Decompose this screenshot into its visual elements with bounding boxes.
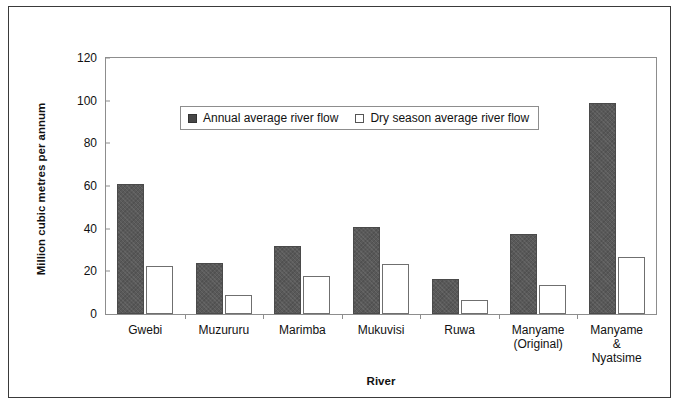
x-axis-category-label: Marimba [279,323,326,337]
x-axis-tick-mark [342,314,343,319]
filled-square-icon [188,114,197,123]
bar-dry [225,295,252,314]
plot-area: 020406080100120GwebiMuzururuMarimbaMukuv… [105,57,657,315]
x-axis-tick-mark [185,314,186,319]
bar-annual [353,227,380,314]
y-axis-tick-mark [106,271,110,272]
y-axis-title-text: Million cubic metres per annum [31,59,51,319]
y-axis-tick-mark [106,143,110,144]
legend-label-annual: Annual average river flow [203,111,338,125]
bar-dry [539,285,566,314]
y-axis-tick-mark [106,100,110,101]
x-axis-category-label: Manyame & Nyatsime [590,323,643,365]
bar-dry [303,276,330,314]
bar-annual [117,184,144,314]
chart-legend: Annual average river flow Dry season ave… [180,106,539,130]
y-axis-tick-label: 60 [84,179,106,193]
y-axis-tick-label: 40 [84,222,106,236]
y-axis-tick-label: 0 [90,307,106,321]
x-axis-tick-mark [499,314,500,319]
y-axis-tick-label: 100 [77,94,106,108]
bar-dry [461,300,488,314]
x-axis-tick-mark [420,314,421,319]
x-axis-category-label: Muzururu [199,323,250,337]
y-axis-tick-mark [106,186,110,187]
x-axis-category-label: Ruwa [444,323,475,337]
bar-annual [196,263,223,314]
bar-dry [146,266,173,314]
y-axis-title: Million cubic metres per annum [31,59,51,319]
x-axis-tick-mark [263,314,264,319]
y-axis-tick-mark [106,228,110,229]
y-axis-tick-label: 80 [84,136,106,150]
bar-dry [618,257,645,314]
x-axis-category-label: Gwebi [128,323,162,337]
y-axis-tick-label: 120 [77,51,106,65]
bar-annual [274,246,301,314]
empty-square-icon [355,114,364,123]
plot-inner: 020406080100120GwebiMuzururuMarimbaMukuv… [106,58,656,314]
bar-annual [510,234,537,314]
bar-dry [382,264,409,314]
chart-figure: Million cubic metres per annum 020406080… [8,6,671,398]
legend-item-dry: Dry season average river flow [355,111,529,125]
x-axis-category-label: Mukuvisi [358,323,405,337]
legend-item-annual: Annual average river flow [188,111,338,125]
bar-annual [432,279,459,314]
bar-annual [589,103,616,314]
x-axis-title: River [105,375,657,387]
y-axis-tick-label: 20 [84,264,106,278]
legend-label-dry: Dry season average river flow [370,111,529,125]
x-axis-category-label: Manyame (Original) [512,323,565,351]
x-axis-tick-mark [577,314,578,319]
y-axis-tick-mark [106,58,110,59]
